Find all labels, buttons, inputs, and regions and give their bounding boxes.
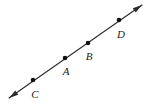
point-label-a: A bbox=[63, 66, 70, 77]
point-dot-a bbox=[63, 56, 68, 61]
point-dot-c bbox=[31, 78, 36, 83]
point-label-c: C bbox=[31, 89, 38, 100]
point-dots-group bbox=[31, 18, 122, 83]
geometry-figure: CABD bbox=[0, 0, 150, 110]
line-group bbox=[9, 5, 142, 98]
line-segment bbox=[9, 5, 142, 98]
arrowhead-upper-right-icon bbox=[133, 5, 142, 13]
point-label-d: D bbox=[117, 29, 125, 40]
point-label-b: B bbox=[86, 51, 93, 62]
point-dot-b bbox=[86, 41, 91, 46]
point-dot-d bbox=[117, 18, 122, 23]
line-diagram-canvas bbox=[0, 0, 150, 110]
arrowhead-lower-left-icon bbox=[9, 90, 18, 98]
